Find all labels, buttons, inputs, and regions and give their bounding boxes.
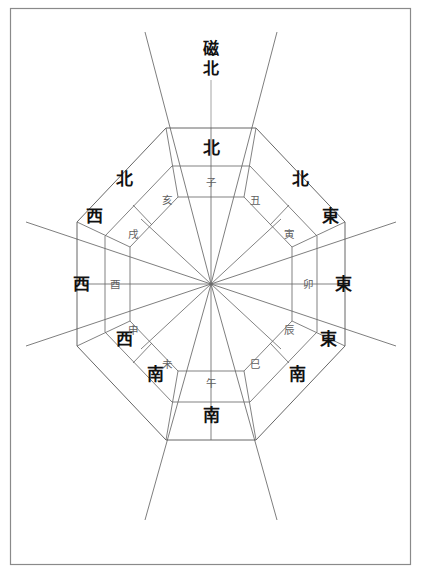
outer-label-northeast-2: 東 — [322, 206, 339, 226]
inner-label-chou: 丑 — [250, 194, 261, 206]
compass-rose-diagram: 北 北 東 東 東 南 南 西 南 西 西 北 子 丑 寅 卯 辰 巳 午 未 … — [0, 0, 422, 576]
outer-label-northwest-2: 北 — [116, 169, 133, 189]
inner-label-wei: 未 — [162, 358, 173, 370]
magnetic-north-label-line2: 北 — [203, 59, 219, 78]
outer-label-south: 南 — [203, 405, 220, 425]
outer-label-southeast-1: 東 — [320, 329, 337, 349]
inner-label-mao: 卯 — [303, 278, 313, 290]
inner-label-chen: 辰 — [284, 324, 295, 336]
magnetic-north-label-line1: 磁 — [203, 39, 219, 58]
inner-label-xu: 戌 — [128, 228, 139, 240]
outer-label-southeast-2: 南 — [289, 364, 306, 384]
inner-label-hai: 亥 — [162, 194, 172, 206]
outer-label-west: 西 — [73, 274, 90, 294]
inner-label-zi: 子 — [206, 176, 216, 188]
inner-label-you: 酉 — [110, 278, 120, 290]
inner-label-shen: 申 — [128, 324, 138, 336]
outer-label-northeast-1: 北 — [292, 169, 309, 189]
outer-label-southwest-2: 南 — [147, 364, 164, 384]
inner-label-si: 巳 — [250, 358, 260, 370]
outer-label-northwest-1: 西 — [86, 206, 103, 226]
figure-canvas: 北 北 東 東 東 南 南 西 南 西 西 北 子 丑 寅 卯 辰 巳 午 未 … — [0, 0, 422, 576]
magnetic-north-caption: 磁 北 — [203, 39, 219, 78]
inner-label-wu: 午 — [206, 377, 216, 389]
outer-label-north: 北 — [203, 138, 220, 158]
inner-label-yin: 寅 — [284, 228, 294, 240]
outer-label-east: 東 — [335, 274, 352, 294]
